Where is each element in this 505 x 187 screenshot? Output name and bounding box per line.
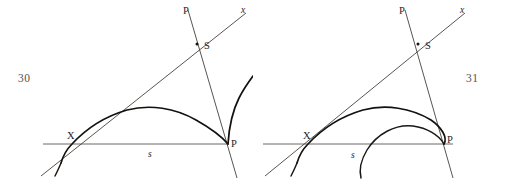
- label-point-p: P: [447, 134, 453, 145]
- label-point-p: P: [231, 138, 237, 149]
- page-number-left: 30: [18, 72, 30, 84]
- figure-page: P x S X P s P x S X P s 30 31: [0, 0, 505, 187]
- point-marker-s: [417, 43, 420, 46]
- label-ray-x: x: [459, 5, 465, 15]
- label-line-p-prime: P: [399, 5, 405, 16]
- curve-tail-left: [291, 163, 297, 176]
- point-marker-s: [196, 43, 199, 46]
- label-point-x: X: [67, 130, 75, 141]
- page-number-right: 31: [466, 72, 478, 84]
- label-baseline-s: s: [351, 150, 355, 160]
- curve-main-arch: [61, 107, 228, 163]
- line-p-prime: [405, 10, 453, 178]
- curve-cusp-branch: [228, 76, 253, 144]
- figure-30: P x S X P s: [0, 0, 253, 187]
- curve-tail-left: [55, 163, 61, 176]
- curve-outer-arch: [297, 107, 445, 163]
- ray-x: [41, 13, 246, 176]
- label-point-s: S: [204, 40, 210, 51]
- line-p-prime: [188, 10, 237, 178]
- label-point-x: X: [303, 130, 311, 141]
- label-baseline-s: s: [148, 149, 152, 159]
- label-ray-x: x: [240, 5, 246, 15]
- label-line-p-prime: P: [183, 5, 189, 16]
- figure-31: P x S X P s: [253, 0, 505, 187]
- label-point-s: S: [425, 40, 431, 51]
- curve-inner-arch: [360, 126, 444, 178]
- ray-x: [265, 13, 465, 176]
